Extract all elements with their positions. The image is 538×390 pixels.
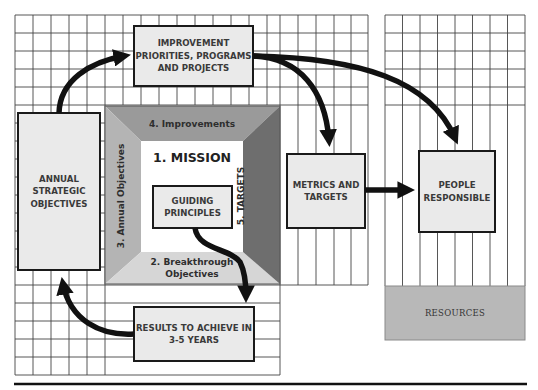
people-responsible-box: PEOPLE RESPONSIBLE xyxy=(419,151,495,232)
metrics-targets-box: METRICS AND TARGETS xyxy=(287,154,365,228)
annual-strategic-box: ANNUAL STRATEGIC OBJECTIVES xyxy=(18,113,100,270)
mission-label: 1. MISSION xyxy=(141,150,243,165)
guiding-principles-box: GUIDING PRINCIPLES xyxy=(153,186,232,228)
results-box: RESULTS TO ACHIEVE IN 3-5 YEARS xyxy=(134,307,254,361)
arrow-results-to-annual xyxy=(63,284,134,334)
resources-label: RESOURCES xyxy=(385,286,525,340)
annual-objectives-label: 3. Annual Objectives xyxy=(116,136,130,256)
arrow-improvement-to-people xyxy=(253,56,455,138)
targets-label: 5. TARGETS xyxy=(236,164,250,228)
improvement-box: IMPROVEMENT PRIORITIES, PROGRAMS AND PRO… xyxy=(134,26,253,86)
improvements-label: 4. Improvements xyxy=(141,118,243,130)
breakthrough-label: 2. Breakthrough Objectives xyxy=(141,256,243,280)
